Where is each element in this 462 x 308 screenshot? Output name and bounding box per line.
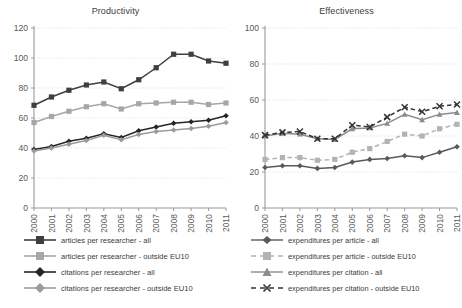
x-tick-label: 2011 bbox=[452, 214, 462, 232]
x-tick-label: 2004 bbox=[330, 214, 340, 233]
plot-area-effectiveness: 0204060801002000200120022003200420052006… bbox=[231, 18, 462, 233]
data-point-square bbox=[66, 109, 71, 114]
y-tick-label: 40 bbox=[18, 143, 28, 153]
series-line bbox=[265, 124, 457, 160]
data-point-diamond bbox=[280, 163, 286, 169]
legend-item: articles per researcher - outside EU10 bbox=[0, 248, 231, 264]
figure: Productivity 020406080100120200020012002… bbox=[0, 0, 462, 308]
data-point-square bbox=[49, 114, 54, 119]
y-tick-label: 80 bbox=[18, 83, 28, 93]
data-point-diamond bbox=[206, 123, 212, 129]
x-tick-label: 2004 bbox=[99, 214, 109, 233]
x-tick-label: 2002 bbox=[295, 214, 305, 233]
data-point-diamond bbox=[315, 166, 321, 172]
plot-area-productivity: 0204060801001202000200120022003200420052… bbox=[0, 18, 231, 233]
series-line bbox=[265, 113, 457, 140]
chart-panel-effectiveness: Effectiveness 02040608010020002001200220… bbox=[231, 0, 462, 308]
y-tick-label: 120 bbox=[14, 23, 29, 33]
data-point-diamond bbox=[367, 157, 373, 163]
series-line bbox=[34, 123, 226, 152]
data-point-square bbox=[171, 52, 176, 57]
data-point-diamond bbox=[454, 144, 460, 150]
legend-label: citations per researcher - outside EU10 bbox=[58, 284, 193, 293]
x-tick-label: 2008 bbox=[400, 214, 410, 233]
data-point-square bbox=[419, 133, 424, 138]
x-tick-label: 2005 bbox=[116, 214, 126, 233]
data-point-diamond bbox=[171, 127, 177, 133]
data-point-square bbox=[437, 126, 442, 131]
x-tick-label: 2003 bbox=[82, 214, 92, 233]
x-tick-label: 2011 bbox=[221, 214, 231, 232]
data-point-diamond bbox=[188, 119, 194, 125]
x-tick-label: 2002 bbox=[64, 214, 74, 233]
data-point-x bbox=[384, 114, 390, 120]
data-point-square bbox=[350, 150, 355, 155]
data-point-diamond bbox=[153, 129, 159, 135]
legend-productivity: articles per researcher - all articles p… bbox=[0, 232, 231, 296]
legend-item: citations per researcher - outside EU10 bbox=[0, 280, 231, 296]
x-tick-label: 2008 bbox=[169, 214, 179, 233]
data-point-square bbox=[188, 52, 193, 57]
data-point-square bbox=[402, 132, 407, 137]
data-point-square bbox=[101, 79, 106, 84]
data-point-diamond bbox=[419, 155, 425, 161]
y-tick-label: 80 bbox=[249, 59, 259, 69]
data-point-square bbox=[385, 139, 390, 144]
data-point-square bbox=[188, 100, 193, 105]
legend-key-icon bbox=[249, 265, 285, 279]
x-tick-label: 2005 bbox=[347, 214, 357, 233]
data-point-square bbox=[223, 61, 228, 66]
data-point-square bbox=[367, 146, 372, 151]
effectiveness-svg: 0204060801002000200120022003200420052006… bbox=[231, 18, 462, 233]
data-point-square bbox=[223, 100, 228, 105]
chart-panel-productivity: Productivity 020406080100120200020012002… bbox=[0, 0, 231, 308]
data-point-square bbox=[136, 101, 141, 106]
x-tick-label: 2000 bbox=[260, 214, 270, 233]
legend-effectiveness: expenditures per article - all expenditu… bbox=[231, 232, 462, 296]
data-point-diamond bbox=[171, 120, 177, 126]
y-tick-label: 60 bbox=[249, 95, 259, 105]
y-tick-label: 20 bbox=[18, 173, 28, 183]
data-point-diamond bbox=[349, 159, 355, 165]
data-point-square bbox=[136, 77, 141, 82]
legend-label: expenditures per citation - all bbox=[285, 268, 383, 277]
legend-key-icon bbox=[22, 281, 58, 295]
data-point-square bbox=[332, 157, 337, 162]
x-tick-label: 2006 bbox=[365, 214, 375, 233]
data-point-square bbox=[154, 65, 159, 70]
x-tick-label: 2001 bbox=[278, 214, 288, 233]
data-point-square bbox=[280, 155, 285, 160]
data-point-square bbox=[66, 88, 71, 93]
y-tick-label: 60 bbox=[18, 113, 28, 123]
legend-key-icon bbox=[22, 233, 58, 247]
legend-key-icon bbox=[22, 265, 58, 279]
data-point-square bbox=[171, 100, 176, 105]
x-tick-label: 2009 bbox=[417, 214, 427, 233]
data-point-square bbox=[206, 102, 211, 107]
data-point-square bbox=[315, 158, 320, 163]
data-point-square bbox=[31, 103, 36, 108]
data-point-square bbox=[454, 122, 459, 127]
x-tick-label: 2001 bbox=[47, 214, 57, 233]
x-tick-label: 2009 bbox=[186, 214, 196, 233]
chart-title-productivity: Productivity bbox=[0, 6, 231, 16]
data-point-square bbox=[297, 155, 302, 160]
series-line bbox=[34, 116, 226, 150]
data-point-diamond bbox=[223, 113, 229, 119]
data-point-square bbox=[119, 86, 124, 91]
data-point-square bbox=[84, 82, 89, 87]
legend-label: expenditures per citation - outside EU10 bbox=[285, 284, 419, 293]
data-point-diamond bbox=[262, 165, 268, 171]
legend-item: expenditures per article - outside EU10 bbox=[231, 248, 462, 264]
x-tick-label: 2010 bbox=[435, 214, 445, 233]
data-point-diamond bbox=[136, 132, 142, 138]
legend-item: expenditures per article - all bbox=[231, 232, 462, 248]
legend-item: expenditures per citation - outside EU10 bbox=[231, 280, 462, 296]
data-point-square bbox=[101, 101, 106, 106]
y-tick-label: 0 bbox=[254, 203, 259, 213]
y-tick-label: 40 bbox=[249, 131, 259, 141]
series-line bbox=[34, 54, 226, 105]
legend-label: articles per researcher - all bbox=[58, 236, 151, 245]
chart-title-effectiveness: Effectiveness bbox=[231, 6, 462, 16]
data-point-square bbox=[206, 58, 211, 63]
